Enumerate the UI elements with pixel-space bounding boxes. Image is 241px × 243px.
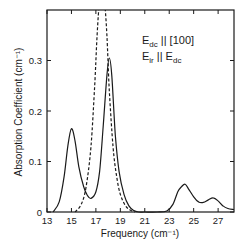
axes-frame (47, 10, 234, 212)
y-tick-label: 0.1 (29, 156, 42, 167)
plot-curves (53, 0, 234, 212)
axis-ticks: 131517192123252700.10.20.3 (29, 10, 234, 226)
annotation-line: Eir || Edc (142, 50, 181, 65)
x-axis-title: Frequency (cm⁻¹) (101, 228, 179, 239)
x-tick-label: 27 (213, 215, 224, 226)
x-tick-label: 19 (115, 215, 126, 226)
plot-border (47, 10, 234, 212)
y-axis-title: Absorption Coefficient (cm⁻¹) (13, 48, 24, 177)
x-tick-label: 21 (139, 215, 150, 226)
absorption-chart: 131517192123252700.10.20.3 Absorption Co… (0, 0, 241, 243)
x-tick-label: 17 (91, 215, 102, 226)
x-tick-label: 25 (188, 215, 199, 226)
field-orientation-annotation: Edc || [100]Eir || Edc (142, 34, 194, 65)
x-tick-label: 23 (164, 215, 175, 226)
x-tick-label: 15 (66, 215, 77, 226)
annotation-line: Edc || [100] (142, 34, 194, 49)
x-tick-label: 13 (42, 215, 53, 226)
solid-curve (53, 58, 234, 212)
y-tick-label: 0.3 (29, 55, 42, 66)
y-tick-label: 0 (37, 207, 42, 218)
y-tick-label: 0.2 (29, 106, 42, 117)
